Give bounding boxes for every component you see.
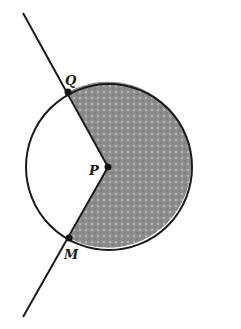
point-m <box>66 235 73 242</box>
shaded-sector <box>68 82 191 248</box>
label-m: M <box>63 247 79 262</box>
point-p <box>105 164 112 171</box>
label-p: P <box>88 163 100 178</box>
geometry-diagram: Q P M <box>0 0 241 329</box>
label-q: Q <box>65 73 77 88</box>
point-q <box>65 89 72 96</box>
